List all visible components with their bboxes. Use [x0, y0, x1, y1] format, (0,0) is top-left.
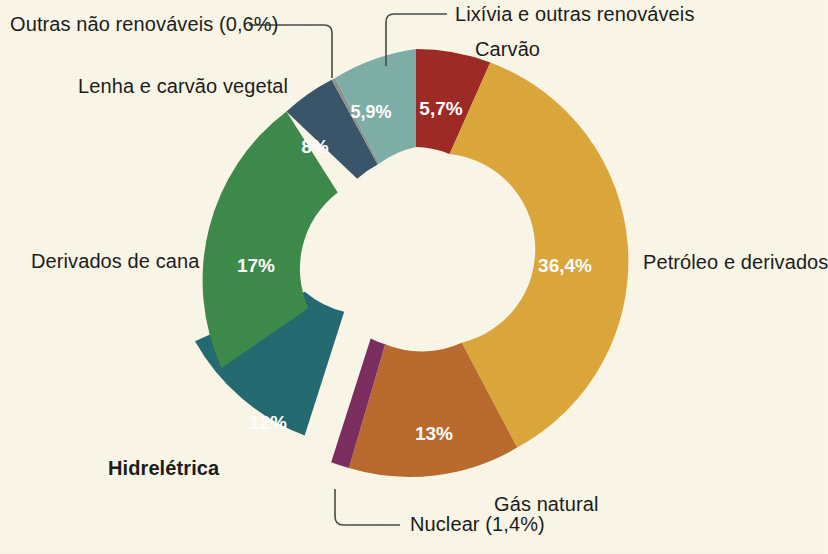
slice-value-lixivia: 5,9% — [350, 102, 391, 122]
label-outras-nao-renovaveis: Outras não renováveis (0,6%) — [10, 14, 278, 34]
label-carvao: Carvão — [475, 39, 540, 59]
slice-value-gas-natural: 13% — [415, 423, 453, 444]
slice-value-derivados-cana: 17% — [237, 255, 275, 276]
slice-value-petroleo: 36,4% — [538, 255, 592, 276]
slice-value-lenha: 8% — [301, 136, 329, 157]
slice-value-hidreletrica: 12% — [249, 412, 287, 433]
label-lenha-carvao-vegetal: Lenha e carvão vegetal — [78, 76, 288, 96]
label-gas-natural: Gás natural — [494, 494, 599, 514]
leader-line-nuclear — [335, 489, 400, 525]
label-lixivia-outras-renovaveis: Lixívia e outras renováveis — [455, 4, 695, 24]
label-hidreletrica: Hidrelétrica — [108, 458, 219, 478]
label-nuclear: Nuclear (1,4%) — [410, 514, 545, 534]
label-petroleo-e-derivados: Petróleo e derivados — [643, 252, 828, 272]
label-derivados-de-cana: Derivados de cana — [31, 251, 199, 271]
slice-value-carvao: 5,7% — [419, 98, 462, 119]
